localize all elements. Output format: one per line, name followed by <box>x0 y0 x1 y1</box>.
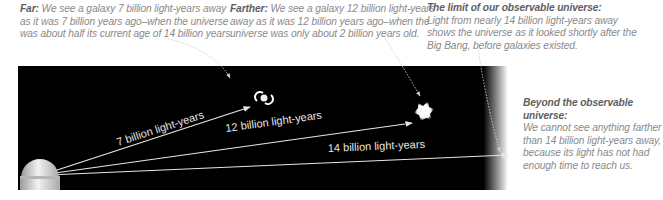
caption-far-title: Far: <box>20 3 39 14</box>
caption-beyond-body: We cannot see anything farther than 14 b… <box>523 122 661 171</box>
callout-limit-line <box>478 50 500 152</box>
young-galaxy-blob-icon <box>414 101 434 121</box>
label-12-billion: 12 billion light-years <box>225 108 323 133</box>
spiral-galaxy-icon <box>255 92 273 104</box>
observatory-icon <box>20 159 60 190</box>
callout-far-line <box>165 38 230 78</box>
caption-farther: Farther: We see a galaxy 12 billion ligh… <box>230 3 435 41</box>
arrow-7-billion <box>48 107 250 173</box>
label-7-billion: 7 billion light-years <box>115 108 206 148</box>
label-14-billion: 14 billion light-years <box>328 138 426 154</box>
caption-limit: The limit of our observable universe: Li… <box>427 2 637 52</box>
caption-far-body: We see a galaxy 7 billion light-years aw… <box>20 3 233 39</box>
caption-farther-title: Farther: <box>230 3 268 14</box>
arrow-14-billion <box>48 155 508 175</box>
caption-far: Far: We see a galaxy 7 billion light-yea… <box>20 3 235 41</box>
caption-limit-body: Light from nearly 14 billion light-years… <box>427 15 637 51</box>
callout-farther-line <box>385 38 420 96</box>
caption-beyond: Beyond the observable universe: We canno… <box>523 97 663 173</box>
caption-beyond-title: Beyond the observable universe: <box>523 97 663 122</box>
caption-limit-title: The limit of our observable universe: <box>427 2 637 15</box>
